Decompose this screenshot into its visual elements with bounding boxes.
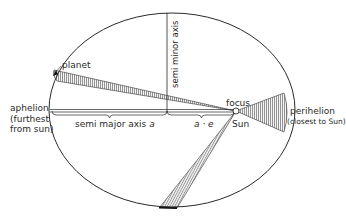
- sun-focus: [233, 108, 239, 114]
- focus-label: focus: [226, 98, 250, 108]
- sun-label: Sun: [232, 119, 249, 129]
- semi-major-axis-label: semi major axis a: [75, 119, 155, 129]
- semi-major-axis-text: semi major axis: [75, 119, 146, 129]
- aphelion-sector: [53, 70, 236, 111]
- aphelion-note-2: from sun): [10, 124, 53, 134]
- aphelion-note-1: (furthest: [10, 114, 49, 124]
- aphelion-label: aphelion: [10, 103, 49, 113]
- planet-label: planet: [62, 60, 91, 70]
- perihelion-label: perihelion: [290, 106, 335, 116]
- semi-minor-axis-label: semi minor axis: [170, 21, 180, 88]
- semi-major-symbol: a: [149, 119, 155, 129]
- perihelion-note: (closest to Sun): [287, 117, 346, 126]
- a-times-e-label: a · e: [194, 119, 214, 129]
